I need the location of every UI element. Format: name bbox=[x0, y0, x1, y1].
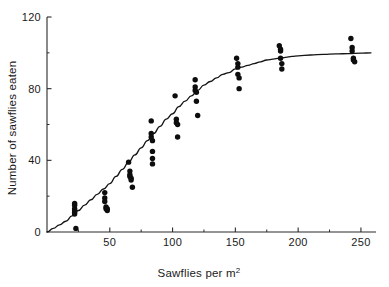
data-point bbox=[150, 149, 155, 154]
y-tick-label-1: 40 bbox=[28, 154, 41, 166]
data-point bbox=[195, 113, 200, 118]
y-tick-label-2: 80 bbox=[28, 83, 41, 95]
data-point bbox=[278, 56, 283, 61]
data-point bbox=[149, 118, 154, 123]
x-tick-label-2: 100 bbox=[163, 236, 182, 248]
data-point bbox=[194, 90, 199, 95]
data-point bbox=[73, 226, 78, 231]
data-point bbox=[192, 77, 197, 82]
data-point bbox=[352, 59, 357, 64]
data-point bbox=[102, 190, 107, 195]
data-point bbox=[126, 159, 131, 164]
x-axis-title-text: Sawflies per m bbox=[158, 267, 236, 279]
data-point bbox=[128, 177, 133, 182]
data-point bbox=[175, 134, 180, 139]
data-point bbox=[236, 75, 241, 80]
data-point bbox=[72, 211, 77, 216]
sawfly-functional-response-figure: 50100150200250 04080120 Sawflies per m2 … bbox=[0, 0, 389, 287]
x-tick-label-3: 150 bbox=[226, 236, 245, 248]
x-axis-title: Sawflies per m2 bbox=[158, 266, 241, 279]
data-point bbox=[235, 64, 240, 69]
x-axis-title-superscript: 2 bbox=[236, 266, 241, 275]
plot-background bbox=[0, 0, 389, 287]
x-tick-label-4: 200 bbox=[289, 236, 308, 248]
data-point bbox=[172, 93, 177, 98]
y-axis-title: Number of sawflies eaten bbox=[6, 61, 18, 196]
data-point bbox=[150, 138, 155, 143]
data-point bbox=[349, 48, 354, 53]
data-point bbox=[279, 66, 284, 71]
data-point bbox=[234, 56, 239, 61]
data-point bbox=[150, 156, 155, 161]
data-point bbox=[348, 36, 353, 41]
scatter-plot-canvas: 50100150200250 04080120 Sawflies per m2 … bbox=[0, 0, 389, 287]
data-point bbox=[194, 99, 199, 104]
data-point bbox=[175, 122, 180, 127]
data-point bbox=[105, 208, 110, 213]
data-point bbox=[278, 48, 283, 53]
data-point bbox=[102, 199, 107, 204]
data-point bbox=[236, 86, 241, 91]
x-tick-label-1: 50 bbox=[103, 236, 116, 248]
y-tick-label-3: 120 bbox=[22, 11, 41, 23]
data-point bbox=[279, 61, 284, 66]
data-point bbox=[130, 185, 135, 190]
data-point bbox=[150, 161, 155, 166]
y-tick-label-0: 0 bbox=[35, 226, 41, 238]
x-tick-label-5: 250 bbox=[351, 236, 370, 248]
